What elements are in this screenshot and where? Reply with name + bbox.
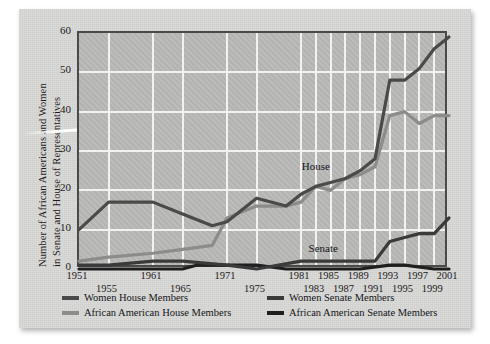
x-tick-label: 1951 [67, 270, 88, 281]
plot-annotation: House [302, 160, 330, 172]
plot-area: HouseSenate [77, 31, 447, 267]
y-tick-label: 30 [43, 143, 71, 154]
y-tick-label: 20 [43, 182, 71, 193]
series-lines [79, 33, 449, 269]
legend-swatch [267, 296, 284, 300]
series-line [79, 37, 449, 230]
legend-swatch [62, 296, 79, 300]
series-line [79, 112, 449, 261]
y-tick-label: 40 [43, 104, 71, 115]
legend-item: African American Senate Members [267, 307, 462, 318]
legend-swatch [62, 311, 79, 315]
x-tick-label: 1997 [407, 270, 428, 281]
legend-swatch [267, 311, 284, 315]
series-line [79, 218, 449, 269]
y-tick-label: 60 [43, 25, 71, 36]
x-tick-label: 1993 [377, 270, 398, 281]
figure-canvas: Number of African Americans and Women in… [0, 0, 490, 344]
x-tick-label: 1961 [141, 270, 162, 281]
y-tick-label: 10 [43, 222, 71, 233]
x-tick-label: 1971 [215, 270, 236, 281]
legend-label: African American Senate Members [289, 307, 437, 318]
x-tick-label: 2001 [437, 270, 458, 281]
legend-item: African American House Members [62, 307, 267, 318]
plot-annotation: Senate [309, 242, 338, 254]
x-tick-label: 1989 [348, 270, 369, 281]
chart-legend: Women House MembersWomen Senate MembersA… [62, 290, 462, 320]
legend-label: Women Senate Members [289, 292, 394, 303]
y-tick-label: 50 [43, 64, 71, 75]
legend-label: Women House Members [84, 292, 188, 303]
x-tick-label: 1981 [289, 270, 310, 281]
legend-label: African American House Members [84, 307, 231, 318]
x-tick-label: 1985 [318, 270, 339, 281]
legend-item: Women House Members [62, 292, 267, 303]
legend-item: Women Senate Members [267, 292, 462, 303]
